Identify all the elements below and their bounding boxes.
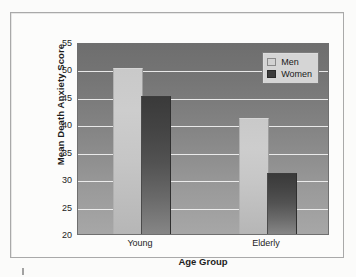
y-axis-tick-label: 45 <box>62 93 72 103</box>
y-axis-tick-label: 40 <box>62 120 72 130</box>
x-axis-tick-label: Elderly <box>252 238 280 248</box>
scan-artifact-tick <box>22 268 24 275</box>
x-axis-tick-label: Young <box>127 238 152 248</box>
y-axis-tick-label: 35 <box>62 148 72 158</box>
bar-women-elderly <box>267 173 297 234</box>
y-axis-tick-label: 50 <box>62 65 72 75</box>
y-axis-tick-label: 30 <box>62 175 72 185</box>
legend-swatch-icon <box>267 70 276 78</box>
y-axis-tick-label: 20 <box>62 230 72 240</box>
x-axis-title: Age Group <box>77 256 329 267</box>
legend-item-label: Men <box>281 57 299 67</box>
legend-item-women: Women <box>267 68 312 80</box>
y-axis-tick-label: 55 <box>62 38 72 48</box>
bar-women-young <box>141 96 171 234</box>
figure-canvas: Mean Death Anxiety Score 202530354045505… <box>0 0 356 277</box>
legend: MenWomen <box>262 52 319 84</box>
legend-item-men: Men <box>267 56 312 68</box>
plot-area: MenWomen <box>77 43 329 235</box>
y-axis-tick-labels: 2025303540455055 <box>51 43 75 235</box>
legend-swatch-icon <box>267 58 276 66</box>
y-axis-tick-label: 25 <box>62 203 72 213</box>
bar-men-elderly <box>239 118 269 234</box>
figure-frame: Mean Death Anxiety Score 202530354045505… <box>10 12 344 258</box>
bar-men-young <box>113 68 143 234</box>
legend-item-label: Women <box>281 69 312 79</box>
x-axis-tick-labels: YoungElderly <box>77 238 329 254</box>
